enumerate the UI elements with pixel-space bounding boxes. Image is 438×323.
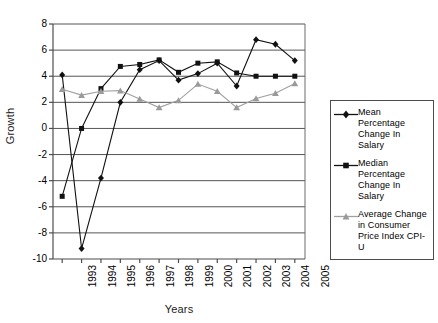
series-diamond (59, 36, 298, 252)
y-tick-label: -2 (21, 150, 47, 160)
data-point-marker (59, 86, 66, 92)
triangle-marker-icon (334, 211, 358, 222)
data-point-marker (136, 96, 143, 102)
data-point-marker (272, 90, 279, 96)
data-point-marker (137, 62, 142, 67)
data-point-marker (79, 126, 84, 131)
square-marker-icon (334, 160, 358, 171)
data-point-marker (137, 66, 143, 73)
series-triangle (59, 80, 298, 110)
data-point-marker (234, 70, 239, 75)
x-tick-label: 2001 (244, 265, 254, 287)
legend-label-mean: Mean Percentage Change In Salary (358, 107, 429, 151)
axis-lines (53, 24, 305, 259)
data-point-marker (292, 74, 297, 79)
data-point-marker (291, 80, 298, 86)
x-tick-label: 1998 (185, 265, 195, 287)
y-tick-label: -6 (21, 202, 47, 212)
x-tick-label: 2004 (302, 265, 312, 287)
legend-item-mean: Mean Percentage Change In Salary (334, 107, 429, 151)
x-tick-label: 1993 (88, 265, 98, 287)
legend-label-cpi: Average Change in Consumer Price Index C… (358, 209, 429, 253)
data-point-marker (157, 57, 162, 62)
x-tick-label: 1996 (147, 265, 157, 287)
data-point-marker (156, 104, 163, 110)
data-point-marker (59, 72, 65, 79)
x-tick-label: 2003 (282, 265, 292, 287)
data-point-marker (79, 245, 85, 252)
data-point-marker (117, 99, 123, 106)
y-tick-label: 6 (21, 45, 47, 55)
x-tick-label: 1995 (127, 265, 137, 287)
data-point-marker (253, 36, 259, 43)
diamond-marker-icon (334, 109, 358, 120)
data-point-marker (176, 70, 181, 75)
legend-item-cpi: Average Change in Consumer Price Index C… (334, 209, 429, 253)
legend-label-median: Median Percentage Change In Salary (358, 158, 429, 202)
data-point-marker (195, 61, 200, 66)
gridlines (53, 24, 305, 259)
data-point-marker (194, 81, 201, 87)
data-point-marker (118, 64, 123, 69)
x-tick-label: 2002 (263, 265, 273, 287)
y-tick-label: -4 (21, 176, 47, 186)
x-tick-label: 2005 (321, 265, 331, 287)
series-layer (59, 36, 298, 252)
data-point-marker (214, 88, 221, 94)
chart-legend: Mean Percentage Change In Salary Median … (330, 100, 434, 260)
x-tick-label: 2000 (224, 265, 234, 287)
data-point-marker (273, 74, 278, 79)
x-axis-title: Years (53, 303, 305, 315)
y-tick-label: -8 (21, 228, 47, 238)
y-tick-label: -10 (21, 254, 47, 264)
data-point-marker (215, 59, 220, 64)
y-tick-label: 8 (21, 19, 47, 29)
y-tick-label: 4 (21, 71, 47, 81)
x-tick-label: 1997 (166, 265, 176, 287)
legend-item-median: Median Percentage Change In Salary (334, 158, 429, 202)
data-point-marker (254, 74, 259, 79)
x-tick-label: 1999 (205, 265, 215, 287)
growth-chart-figure: Growth 86420-2-4-6-8-10 1993199419951996… (0, 0, 438, 323)
y-tick-label: 0 (21, 123, 47, 133)
data-point-marker (60, 194, 65, 199)
y-tick-label: 2 (21, 97, 47, 107)
x-tick-label: 1994 (108, 265, 118, 287)
